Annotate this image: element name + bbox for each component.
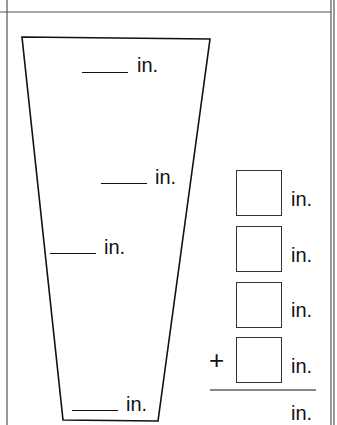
- bottom-side-unit: in.: [126, 394, 147, 414]
- top-side-blank[interactable]: [82, 72, 128, 73]
- bottom-side-blank[interactable]: [72, 410, 118, 411]
- addend-box-4[interactable]: [236, 337, 282, 383]
- addend-box-3[interactable]: [236, 282, 282, 328]
- addend-unit-2: in.: [291, 245, 312, 265]
- addend-unit-4: in.: [291, 356, 312, 376]
- left-side-blank[interactable]: [50, 253, 96, 254]
- addend-box-1[interactable]: [236, 170, 282, 216]
- right-side-unit: in.: [155, 167, 176, 187]
- right-side-blank[interactable]: [101, 183, 147, 184]
- addend-box-2[interactable]: [236, 226, 282, 272]
- total-unit: in.: [291, 403, 312, 423]
- plus-sign: +: [209, 347, 224, 373]
- addend-unit-3: in.: [291, 300, 312, 320]
- addend-unit-1: in.: [291, 189, 312, 209]
- left-side-unit: in.: [104, 237, 125, 257]
- top-side-unit: in.: [137, 55, 158, 75]
- page-frame: [0, 0, 337, 425]
- trapezoid-shape: [22, 37, 210, 421]
